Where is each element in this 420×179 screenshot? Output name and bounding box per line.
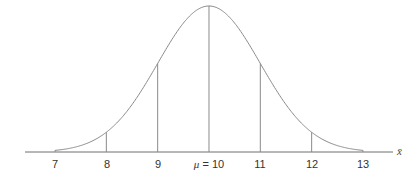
mean-value: = 10 xyxy=(199,158,224,170)
tick-label-7: 7 xyxy=(52,158,58,170)
tick-label-mean: μ = 10 xyxy=(193,158,224,170)
tick-label-11: 11 xyxy=(254,158,265,170)
x-axis-label: x̄ xyxy=(396,145,402,157)
tick-label-9: 9 xyxy=(155,158,161,170)
normal-distribution-chart: 7 8 9 μ = 10 11 12 13 x̄ xyxy=(0,0,420,179)
tick-label-13: 13 xyxy=(357,158,369,170)
vertical-lines xyxy=(55,6,363,152)
tick-label-12: 12 xyxy=(306,158,318,170)
tick-label-8: 8 xyxy=(104,158,110,170)
